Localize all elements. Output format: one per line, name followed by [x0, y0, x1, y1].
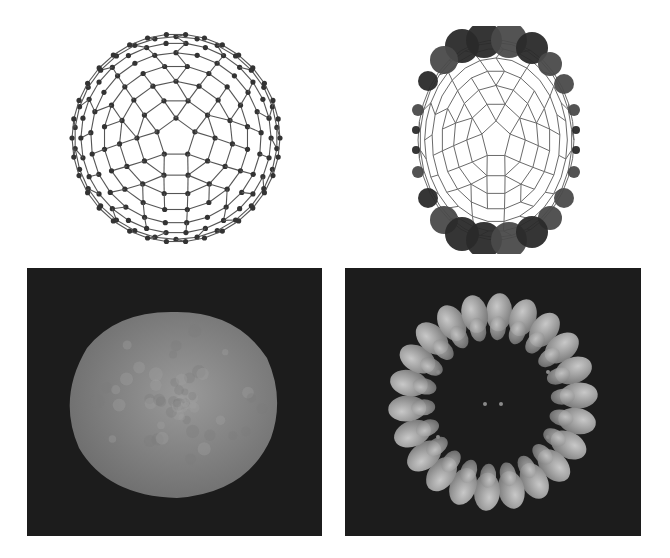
panel-a-wireframe-cage: [66, 28, 286, 248]
surface-render-graphic: [27, 268, 322, 536]
cage-spheres-graphic: [396, 26, 596, 254]
panel-b-cage-with-spheres: [396, 26, 596, 254]
orbital-ring-graphic: [345, 268, 641, 536]
panel-d-orbital-ring-render: [345, 268, 641, 536]
panel-c-surface-render: [27, 268, 322, 536]
cage-wireframe-graphic: [66, 28, 286, 248]
